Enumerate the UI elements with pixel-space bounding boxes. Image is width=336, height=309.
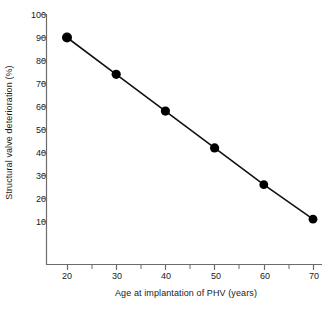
x-tick-marks-minor (92, 265, 289, 269)
data-point-30 (112, 70, 121, 79)
data-point-20 (62, 33, 72, 43)
data-point-40 (161, 107, 170, 116)
data-point-50 (210, 143, 219, 152)
plot-area (0, 0, 336, 309)
data-line-series-1 (67, 38, 313, 220)
data-point-70 (309, 215, 318, 224)
chart-figure: Structural valve deterioration (%) Age a… (0, 0, 336, 309)
data-point-60 (259, 180, 268, 189)
y-tick-marks (41, 15, 46, 222)
axes-spines (46, 14, 322, 265)
